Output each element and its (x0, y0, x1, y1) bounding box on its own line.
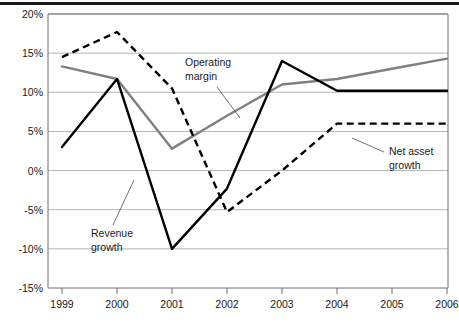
x-tick-label-2004: 2004 (325, 298, 349, 310)
y-tick-label-neg5: -5% (24, 204, 43, 216)
x-tick-label-1999: 1999 (50, 298, 74, 310)
annotation-operating-margin: Operating margin (185, 56, 231, 82)
leader-line-net-asset-growth (352, 138, 384, 152)
annotation-net-asset-growth-line2: growth (389, 159, 421, 171)
annotation-revenue-growth-line1: Revenue (91, 227, 133, 239)
x-axis-tick-marks (62, 288, 447, 294)
x-axis-tick-labels: 1999 2000 2001 2002 2003 2004 2005 2006 (50, 298, 459, 310)
chart-figure: 20% 15% 10% 5% 0% -5% -10% -15% 1999 200… (0, 0, 459, 324)
annotation-revenue-growth-line2: growth (91, 241, 123, 253)
x-tick-label-2003: 2003 (270, 298, 294, 310)
leader-line-operating-margin (217, 87, 240, 118)
series-line-operating-margin (62, 59, 447, 149)
annotation-operating-margin-line2: margin (185, 70, 217, 82)
x-tick-label-2005: 2005 (380, 298, 404, 310)
annotation-operating-margin-line1: Operating (185, 56, 231, 68)
x-tick-label-2002: 2002 (215, 298, 239, 310)
y-tick-label-neg10: -10% (18, 243, 43, 255)
y-tick-label-neg15: -15% (18, 282, 43, 294)
leader-line-revenue-growth (113, 180, 134, 225)
y-tick-label-10: 10% (22, 86, 43, 98)
line-chart-canvas: 20% 15% 10% 5% 0% -5% -10% -15% 1999 200… (0, 0, 459, 324)
x-tick-label-2006: 2006 (435, 298, 459, 310)
y-tick-label-15: 15% (22, 47, 43, 59)
annotation-leader-lines (113, 87, 384, 225)
annotation-net-asset-growth: Net asset growth (389, 145, 433, 171)
y-tick-label-5: 5% (28, 125, 43, 137)
annotation-net-asset-growth-line1: Net asset (389, 145, 433, 157)
y-tick-label-20: 20% (22, 8, 43, 20)
gridlines (48, 14, 448, 249)
x-tick-label-2000: 2000 (105, 298, 129, 310)
y-axis-tick-labels: 20% 15% 10% 5% 0% -5% -10% -15% (18, 8, 43, 294)
y-tick-label-0: 0% (28, 165, 43, 177)
x-tick-label-2001: 2001 (160, 298, 184, 310)
